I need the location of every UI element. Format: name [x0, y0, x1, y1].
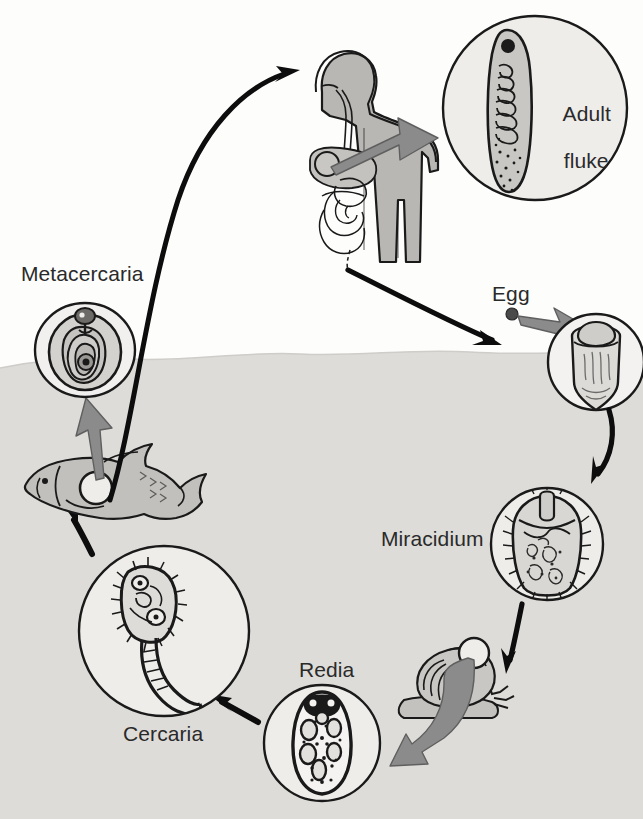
human-host-figure	[310, 51, 438, 270]
metacercaria-inset	[35, 303, 135, 397]
arrow-human-to-egg	[348, 270, 502, 345]
egg-inset	[548, 314, 643, 410]
label-egg: Egg	[492, 282, 530, 306]
label-adult-fluke-line1: Adult	[563, 102, 611, 125]
label-redia: Redia	[299, 658, 354, 682]
label-miracidium: Miracidium	[381, 527, 484, 551]
label-metacercaria: Metacercaria	[21, 262, 144, 286]
life-cycle-diagram-page: Metacercaria Adult fluke Egg Miracidium …	[0, 0, 643, 819]
egg-dot-marker	[506, 308, 518, 320]
label-adult-fluke-line2: fluke	[564, 149, 609, 172]
cercaria-inset	[79, 546, 249, 716]
label-cercaria: Cercaria	[123, 722, 203, 746]
label-adult-fluke: Adult fluke	[540, 78, 611, 196]
redia-inset	[264, 685, 380, 801]
